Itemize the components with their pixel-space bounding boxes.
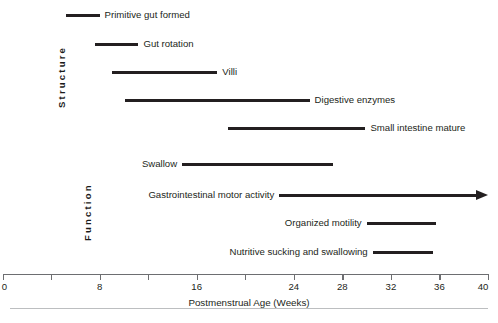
bar-row: Villi [0, 65, 498, 79]
axis-tick-label: 36 [434, 281, 445, 292]
figure-container: Structure Function Primitive gut formedG… [0, 0, 498, 323]
bar-label: Small intestine mature [370, 121, 465, 135]
axis-title: Postmenstrual Age (Weeks) [0, 297, 498, 308]
bar-segment [373, 251, 434, 254]
axis-tick [294, 274, 295, 280]
bar-row: Gut rotation [0, 37, 498, 51]
bar-label: Gut rotation [143, 37, 193, 51]
bar-label: Villi [222, 65, 237, 79]
bar-label: Digestive enzymes [315, 93, 396, 107]
bar-label: Primitive gut formed [105, 8, 190, 22]
axis-tick-label: 32 [386, 281, 397, 292]
bar-segment [228, 127, 365, 130]
bar-row: Gastrointestinal motor activity [0, 188, 498, 202]
bar-label: Swallow [142, 157, 177, 171]
bar-label: Nutritive sucking and swallowing [230, 245, 368, 259]
axis-tick-label: 24 [288, 281, 299, 292]
axis-tick [439, 274, 440, 280]
axis-tick [100, 274, 101, 280]
bar-segment [66, 14, 100, 17]
plot-area: Structure Function Primitive gut formedG… [0, 0, 498, 272]
axis-tick [488, 274, 489, 280]
bar-row: Primitive gut formed [0, 8, 498, 22]
bar-segment [182, 163, 333, 166]
bar-segment [112, 71, 218, 74]
axis-tick-label: 16 [191, 281, 202, 292]
axis-tick [148, 274, 149, 280]
bar-row: Nutritive sucking and swallowing [0, 245, 498, 259]
axis-tick-label: 0 [2, 281, 7, 292]
axis-tick-label: 40 [478, 281, 489, 292]
axis-tick-label: 28 [337, 281, 348, 292]
bar-segment [367, 222, 436, 225]
bar-label: Gastrointestinal motor activity [148, 188, 274, 202]
axis-tick [3, 274, 4, 280]
bar-row: Swallow [0, 157, 498, 171]
axis-tick [51, 274, 52, 280]
bar-row: Organized motility [0, 216, 498, 230]
arrowhead-icon [476, 190, 488, 200]
x-axis: 08162428323640 Postmenstrual Age (Weeks) [0, 272, 498, 323]
axis-tick [197, 274, 198, 280]
footer-divider [10, 308, 488, 309]
bar-segment [125, 99, 309, 102]
bar-segment [95, 43, 139, 46]
bar-segment [279, 194, 476, 197]
axis-tick-label: 8 [97, 281, 102, 292]
bar-label: Organized motility [285, 216, 362, 230]
axis-tick [391, 274, 392, 280]
bar-row: Digestive enzymes [0, 93, 498, 107]
bar-row: Small intestine mature [0, 121, 498, 135]
axis-tick [342, 274, 343, 280]
axis-tick [245, 274, 246, 280]
